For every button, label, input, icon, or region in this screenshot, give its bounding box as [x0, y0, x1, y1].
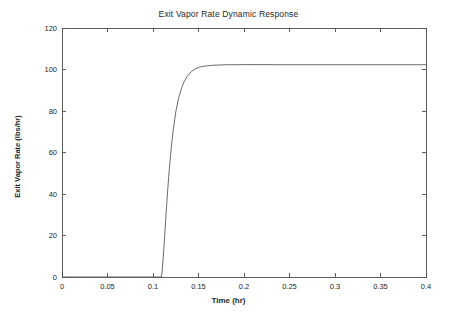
y-axis-ticks [62, 28, 426, 277]
data-series-line [62, 65, 426, 277]
y-axis-label: Exit Vapor Rate (lbs/hr) [13, 77, 22, 237]
svg-text:40: 40 [49, 190, 57, 199]
y-axis-tick-labels: 020406080100120 [44, 24, 57, 282]
svg-text:0.4: 0.4 [421, 282, 431, 291]
svg-text:60: 60 [49, 148, 57, 157]
plot-area: 00.050.10.150.20.250.30.350.4 0204060801… [0, 0, 457, 315]
svg-text:120: 120 [44, 24, 57, 33]
figure-container: Exit Vapor Rate Dynamic Response 00.050.… [0, 0, 457, 315]
svg-text:0.2: 0.2 [239, 282, 249, 291]
svg-text:0.35: 0.35 [373, 282, 388, 291]
svg-text:0.3: 0.3 [330, 282, 340, 291]
axes-frame [62, 28, 426, 277]
x-axis-tick-labels: 00.050.10.150.20.250.30.350.4 [60, 282, 431, 291]
svg-text:100: 100 [44, 65, 57, 74]
svg-text:0: 0 [60, 282, 64, 291]
svg-text:0.1: 0.1 [148, 282, 158, 291]
svg-text:20: 20 [49, 231, 57, 240]
svg-text:0: 0 [53, 273, 57, 282]
svg-text:80: 80 [49, 107, 57, 116]
x-axis-ticks [62, 28, 426, 277]
svg-text:0.05: 0.05 [100, 282, 115, 291]
x-axis-label: Time (hr) [0, 296, 457, 305]
svg-text:0.25: 0.25 [282, 282, 297, 291]
svg-text:0.15: 0.15 [191, 282, 206, 291]
